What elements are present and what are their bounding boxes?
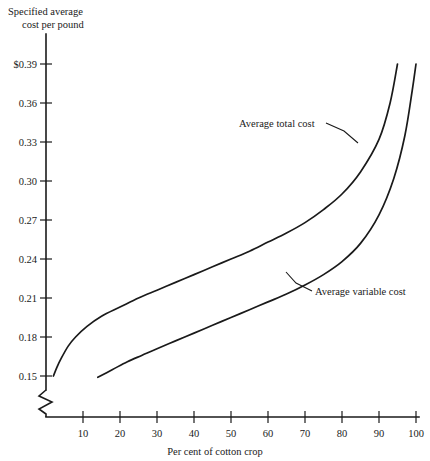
x-tick-label-20: 20 [115, 428, 126, 439]
x-tick-label-70: 70 [300, 428, 311, 439]
average-total-cost-curve [53, 64, 397, 376]
y-tick-label-0.21: 0.21 [19, 293, 37, 304]
chart-svg: Specified average cost per pound $0.39 0… [0, 0, 430, 461]
y-axis-title-line2: cost per pound [22, 19, 85, 30]
annotation-average-variable-cost: Average variable cost [315, 286, 406, 297]
x-tick-label-50: 50 [226, 428, 237, 439]
x-tick-label-100: 100 [408, 428, 424, 439]
x-tick-label-40: 40 [189, 428, 200, 439]
y-tick-label-0.33: 0.33 [19, 137, 37, 148]
annotation-average-total-cost: Average total cost [239, 118, 315, 129]
x-tick-label-80: 80 [337, 428, 348, 439]
y-tick-label-0.39: $0.39 [13, 59, 37, 70]
y-axis-title-line1: Specified average [8, 6, 83, 17]
y-tick-label-0.36: 0.36 [19, 98, 37, 109]
x-tick-label-10: 10 [78, 428, 89, 439]
y-tick-label-0.15: 0.15 [19, 371, 37, 382]
y-axis-break-icon [39, 390, 52, 417]
leader-line-average-total-cost [326, 123, 358, 143]
x-tick-label-30: 30 [152, 428, 163, 439]
x-tick-label-90: 90 [374, 428, 385, 439]
average-variable-cost-curve [98, 64, 416, 377]
y-tick-label-0.24: 0.24 [19, 254, 38, 265]
x-axis-title: Per cent of cotton crop [167, 446, 263, 457]
x-tick-label-60: 60 [263, 428, 274, 439]
y-tick-label-0.18: 0.18 [19, 332, 37, 343]
y-tick-label-0.30: 0.30 [19, 176, 37, 187]
y-tick-label-0.27: 0.27 [19, 215, 37, 226]
cost-curve-chart: Specified average cost per pound $0.39 0… [0, 0, 430, 461]
